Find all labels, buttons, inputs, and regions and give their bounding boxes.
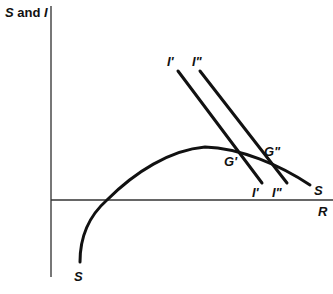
saving-investment-diagram: S and I R S S I' I' I" I" G' G" [0,0,333,294]
investment-curve-1-label-bottom: I' [252,185,260,200]
investment-curve-1-label-top: I' [167,54,175,69]
saving-curve-label-top: S [314,183,323,198]
equilibrium-point-1-label: G' [224,154,238,169]
saving-curve [80,147,310,262]
y-axis-title-i: I [44,5,48,20]
investment-curve-2-label-bottom: I" [272,185,283,200]
y-axis-title: S and I [5,5,48,20]
y-axis-title-s: S [5,5,14,20]
investment-curve-1 [178,71,262,183]
saving-curve-label-bottom: S [74,269,83,284]
investment-curve-2-label-top: I" [192,54,203,69]
equilibrium-point-2-label: G" [264,144,281,159]
investment-curve-2 [200,71,287,183]
x-axis-label: R [318,204,328,219]
y-axis-title-and: and [14,5,44,20]
